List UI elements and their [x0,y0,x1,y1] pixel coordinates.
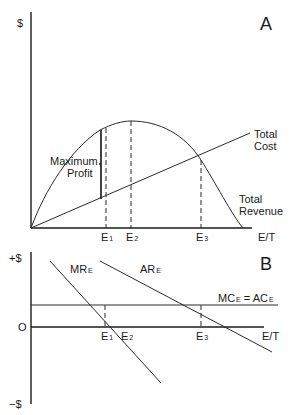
panel-a-e1-label: E1 [101,231,113,243]
panel-b-e1-label: E1 [101,330,113,342]
total-cost-label-line2: Cost [254,140,277,152]
total-revenue-curve [31,121,243,228]
panel-a-e2-label: E2 [126,231,138,243]
total-revenue-label-line1: Total [239,193,262,205]
panel-b-e2-label: E2 [121,330,133,342]
total-revenue-label-line2: Revenue [239,205,283,217]
total-cost-line [31,133,250,228]
total-cost-label-line1: Total [254,128,277,140]
panel-b-title: B [260,254,272,274]
economic-diagram: $ A Maximum Profit Total Cost Total Reve… [0,0,292,415]
ar-label: ARE [140,263,161,275]
panel-a: $ A Maximum Profit Total Cost Total Reve… [17,12,283,243]
panel-b-origin-label: O [18,321,27,333]
panel-b: +$ O −$ B MRE ARE MCE = ACE E1 E2 E3 E/T [9,252,279,410]
panel-a-title: A [260,14,272,34]
panel-b-y-bottom-label: −$ [9,398,22,410]
maximum-profit-label-line2: Profit [67,167,93,179]
panel-b-e3-label: E3 [196,330,208,342]
mr-label: MRE [70,263,93,275]
panel-b-y-top-label: +$ [9,252,22,264]
panel-a-x-label: E/T [258,231,275,243]
maximum-profit-label-line1: Maximum [50,155,98,167]
panel-b-x-label: E/T [262,330,279,342]
mc-ac-label: MCE = ACE [218,292,274,304]
panel-a-y-label: $ [17,17,23,29]
panel-a-e3-label: E3 [196,231,208,243]
